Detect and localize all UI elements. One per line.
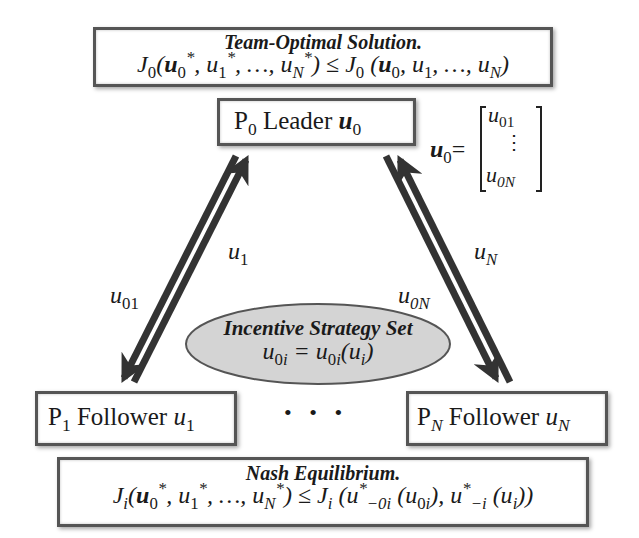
nash-equilibrium-box: Nash Equilibrium. Ji(u0*, u1*, …, uN*) ≤… xyxy=(57,457,589,527)
label-u1: u1 xyxy=(228,238,248,265)
leader-label: Leader xyxy=(263,107,332,134)
label-uN: uN xyxy=(474,238,497,265)
incentive-equation: u0i = u0i(ui) xyxy=(186,338,450,365)
team-optimal-equation: J0(u0*, u1*, …, uN*) ≤ J0 (u0, u1, …, uN… xyxy=(96,51,550,78)
ellipsis-dots: • • • xyxy=(284,400,348,426)
follower-1-box: P1 Follower u1 xyxy=(35,391,237,446)
matrix-bracket: u01 ⋮ u0N xyxy=(480,106,542,192)
label-u01: u01 xyxy=(110,282,139,309)
nash-equation: Ji(u0*, u1*, …, uN*) ≤ Ji (u*−0i (u0i), … xyxy=(60,482,586,509)
u0-vector-definition: u0= u01 ⋮ u0N xyxy=(430,104,550,196)
leader-box: P0 Leader u0 xyxy=(217,98,416,146)
incentive-strategy-text: Incentive Strategy Set u0i = u0i(ui) xyxy=(186,316,450,365)
follower-N-box: PN Follower uN xyxy=(406,391,608,446)
team-optimal-box: Team-Optimal Solution. J0(u0*, u1*, …, u… xyxy=(93,27,553,87)
label-u0N: u0N xyxy=(398,282,430,309)
